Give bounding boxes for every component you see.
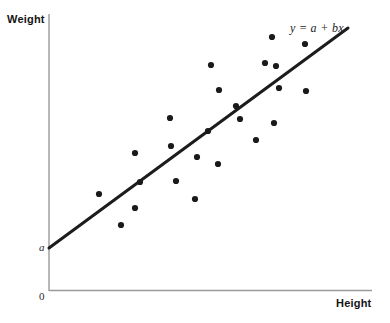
data-point: [276, 85, 282, 91]
data-point: [173, 178, 179, 184]
data-point: [194, 154, 200, 160]
data-point: [137, 179, 143, 185]
data-point: [303, 88, 309, 94]
data-point: [192, 196, 198, 202]
y-axis-label: Weight: [7, 13, 45, 25]
data-point: [168, 143, 174, 149]
data-point: [132, 150, 138, 156]
plot-canvas: [0, 0, 390, 323]
data-point: [205, 128, 211, 134]
regression-equation-annotation: y = a + bx: [290, 21, 344, 36]
data-point: [167, 115, 173, 121]
x-axis-label: Height: [336, 297, 371, 309]
data-point: [262, 60, 268, 66]
data-point: [215, 161, 221, 167]
data-point: [273, 63, 279, 69]
data-point-group: [96, 34, 309, 228]
data-point: [118, 222, 124, 228]
data-point: [253, 137, 259, 143]
data-point: [237, 116, 243, 122]
data-point: [302, 41, 308, 47]
data-point: [269, 34, 275, 40]
data-point: [216, 87, 222, 93]
data-point: [271, 120, 277, 126]
y-intercept-label: a: [39, 241, 45, 253]
scatter-plot-figure: Weight Height a 0 y = a + bx: [0, 0, 390, 323]
origin-label: 0: [39, 290, 45, 302]
regression-line: [49, 28, 348, 248]
data-point: [233, 103, 239, 109]
data-point: [208, 62, 214, 68]
data-point: [132, 205, 138, 211]
data-point: [96, 191, 102, 197]
